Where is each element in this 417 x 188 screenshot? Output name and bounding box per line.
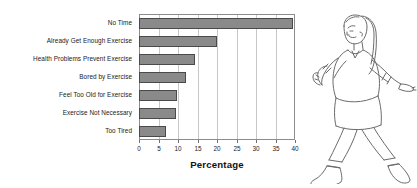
category-label: No Time	[108, 20, 132, 26]
x-tick-mark	[295, 140, 296, 143]
x-tick-mark	[237, 140, 238, 143]
x-tick-label: 20	[213, 146, 220, 152]
x-tick-label: 40	[291, 146, 298, 152]
x-tick-mark	[256, 140, 257, 143]
x-gridline	[256, 15, 257, 139]
x-gridline	[198, 15, 199, 139]
x-tick-label: 35	[272, 146, 279, 152]
x-tick-label: 25	[233, 146, 240, 152]
x-tick-label: 30	[252, 146, 259, 152]
category-label: Exercise Not Necessary	[63, 110, 132, 116]
x-tick-label: 15	[194, 146, 201, 152]
category-label: Bored by Exercise	[79, 74, 132, 80]
bar	[139, 36, 217, 47]
bar	[139, 90, 177, 101]
x-gridline	[276, 15, 277, 139]
category-axis-labels: No TimeAlready Get Enough ExerciseHealth…	[0, 0, 136, 188]
walking-woman-illustration	[300, 4, 417, 184]
x-tick-label: 0	[137, 146, 141, 152]
bar	[139, 126, 166, 137]
x-tick-label: 5	[157, 146, 161, 152]
x-tick-mark	[276, 140, 277, 143]
x-gridline	[237, 15, 238, 139]
bar-chart-figure: No TimeAlready Get Enough ExerciseHealth…	[0, 0, 417, 188]
bar	[139, 108, 176, 119]
x-tick-mark	[198, 140, 199, 143]
x-tick-label: 10	[174, 146, 181, 152]
x-tick-mark	[178, 140, 179, 143]
category-label: Too Tired	[105, 128, 132, 134]
x-tick-mark	[139, 140, 140, 143]
bar	[139, 18, 293, 29]
bar	[139, 54, 195, 65]
bar	[139, 72, 186, 83]
category-label: Health Problems Prevent Exercise	[33, 56, 132, 62]
x-tick-mark	[217, 140, 218, 143]
x-tick-mark	[159, 140, 160, 143]
x-gridline	[217, 15, 218, 139]
x-axis-title: Percentage	[190, 160, 244, 170]
category-label: Already Get Enough Exercise	[47, 38, 132, 44]
category-label: Feel Too Old for Exercise	[59, 92, 132, 98]
